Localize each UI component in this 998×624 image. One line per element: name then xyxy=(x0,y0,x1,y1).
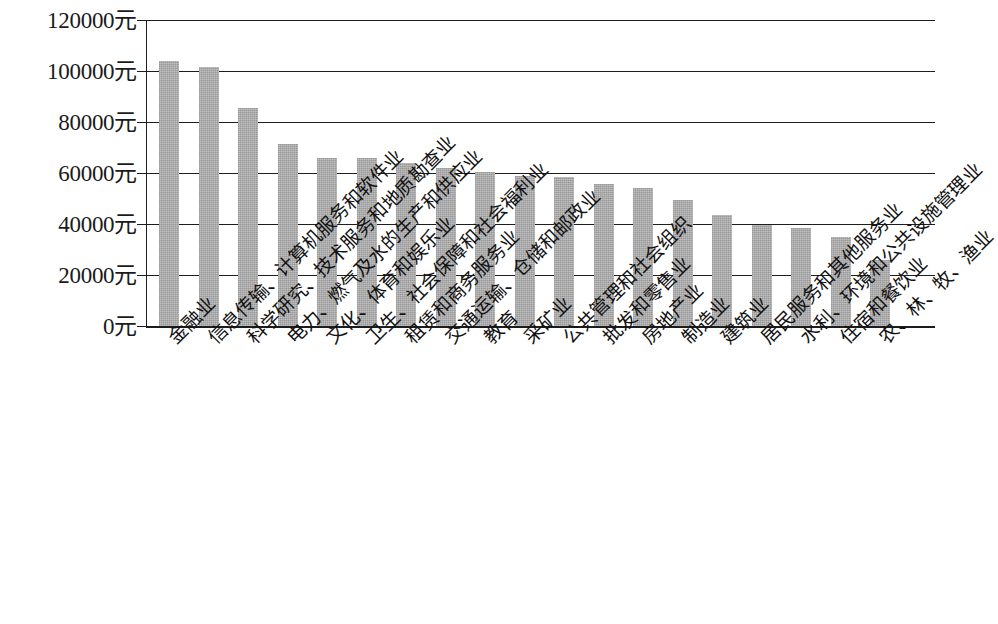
y-axis-tick xyxy=(137,275,146,276)
y-axis-tick-label: 120000元 xyxy=(0,9,137,32)
y-axis-tick xyxy=(137,20,146,21)
y-axis-tick-label: 100000元 xyxy=(0,60,137,83)
gridline xyxy=(146,224,935,225)
gridline xyxy=(146,122,935,123)
y-axis-tick xyxy=(137,173,146,174)
y-axis-tick xyxy=(137,122,146,123)
y-axis-tick-label: 60000元 xyxy=(0,162,137,185)
bar[interactable] xyxy=(159,61,179,326)
y-axis-labels: 120000元100000元80000元60000元40000元20000元0元 xyxy=(0,20,137,326)
y-axis-tick xyxy=(137,224,146,225)
y-axis-tick xyxy=(137,71,146,72)
gridline xyxy=(146,71,935,72)
y-axis-tick-label: 20000元 xyxy=(0,264,137,287)
y-axis-tick-label: 0元 xyxy=(0,315,137,338)
y-axis-tick-label: 40000元 xyxy=(0,213,137,236)
bar[interactable] xyxy=(199,67,219,326)
gridline xyxy=(146,20,935,21)
y-axis-tick-label: 80000元 xyxy=(0,111,137,134)
y-axis-tick xyxy=(137,326,146,327)
